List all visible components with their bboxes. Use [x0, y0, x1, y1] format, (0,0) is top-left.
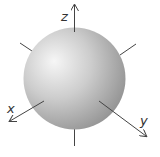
axis-stub-upper-left: [20, 43, 32, 51]
sphere: [24, 28, 126, 130]
axis-stub-upper-right: [120, 44, 136, 55]
z-axis-label: z: [60, 9, 69, 24]
y-axis-label: y: [139, 113, 148, 128]
x-axis-label: x: [6, 101, 15, 116]
sphere-diagram: z x y: [0, 0, 160, 157]
